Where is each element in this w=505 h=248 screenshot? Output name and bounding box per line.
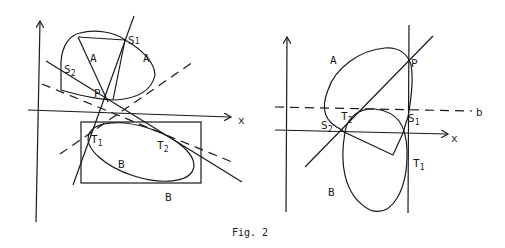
left-diagram: x A A S1 S2 P T1 T2 B B	[28, 16, 245, 222]
left-x-axis	[28, 110, 230, 117]
label-b-inner: B	[118, 158, 125, 171]
label-a-inner: A	[90, 52, 97, 65]
label-s2: S2	[64, 63, 76, 78]
right-y-axis	[286, 38, 287, 212]
label-b-line: b	[476, 106, 483, 119]
label-p: P	[411, 57, 418, 70]
label-t1: T1	[413, 157, 425, 172]
left-y-axis	[36, 22, 40, 222]
label-s1: S1	[128, 34, 140, 47]
label-p: P	[94, 87, 101, 100]
label-t2: T2	[157, 139, 169, 154]
region-b-oval	[343, 109, 407, 211]
label-s1: S1	[408, 112, 420, 127]
bounding-box-b	[81, 122, 201, 183]
label-b: B	[328, 186, 335, 199]
figure-caption: Fig. 2	[232, 227, 268, 238]
region-b-ellipse	[81, 111, 201, 193]
right-diagram: x b A P S1 S2 T2 T1 B	[275, 25, 483, 213]
chord-a-diag	[78, 37, 108, 102]
left-x-axis-label: x	[238, 114, 245, 127]
right-x-axis-label: x	[451, 132, 458, 145]
right-x-axis	[275, 130, 447, 134]
label-s2: S2	[321, 119, 333, 134]
label-b-outer: B	[165, 191, 172, 204]
label-t1: T1	[91, 133, 103, 148]
label-t2: T2	[341, 110, 353, 125]
line-through-s1	[73, 16, 134, 185]
label-a: A	[330, 54, 337, 67]
label-a-outer: A	[143, 52, 150, 65]
chord-top	[78, 37, 125, 40]
dashed-line-lower	[60, 62, 193, 154]
figure-canvas: x A A S1 S2 P T1 T2 B B x	[0, 0, 505, 248]
